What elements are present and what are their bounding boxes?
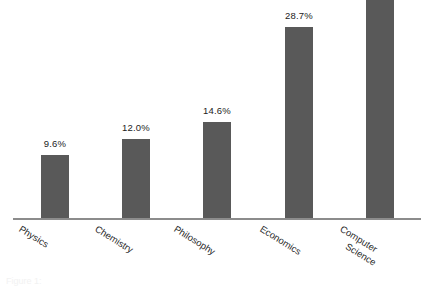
bar-physics[interactable] xyxy=(41,155,69,219)
figure-caption: Figure 1: xyxy=(6,276,42,286)
bar-economics[interactable] xyxy=(285,27,313,219)
bar-value-physics: 9.6% xyxy=(44,138,66,149)
plot-area: 9.6% 12.0% 14.6% 28.7% 32.8% xyxy=(0,0,433,219)
bar-group-philosophy: 14.6% xyxy=(203,0,231,219)
x-tick-label-economics: Economics xyxy=(258,223,304,258)
x-axis-tick-labels: Physics Chemistry Philosophy Economics C… xyxy=(0,219,433,274)
x-tick-label-chemistry: Chemistry xyxy=(93,223,136,256)
bar-value-philosophy: 14.6% xyxy=(203,105,231,116)
bar-computer-science[interactable] xyxy=(366,0,394,219)
bar-group-economics: 28.7% xyxy=(285,0,313,219)
x-tick-label-philosophy: Philosophy xyxy=(172,223,218,258)
bar-value-economics: 28.7% xyxy=(285,10,313,21)
bar-group-physics: 9.6% xyxy=(41,0,69,219)
bar-chart-figure: 9.6% 12.0% 14.6% 28.7% 32.8% Physics Che… xyxy=(0,0,433,287)
bar-value-chemistry: 12.0% xyxy=(122,122,150,133)
x-tick-label-physics: Physics xyxy=(17,223,51,251)
bar-chemistry[interactable] xyxy=(122,139,150,219)
bar-group-computer-science: 32.8% xyxy=(366,0,394,219)
x-tick-label-computer-science: Computer Science xyxy=(331,223,384,269)
bar-group-chemistry: 12.0% xyxy=(122,0,150,219)
bar-philosophy[interactable] xyxy=(203,122,231,219)
